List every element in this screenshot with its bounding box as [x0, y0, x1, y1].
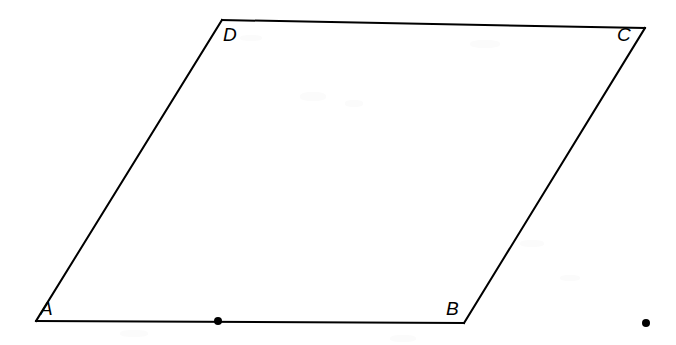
- edge-AB: [36, 321, 464, 323]
- edge-BC: [464, 28, 645, 323]
- vertex-label-A: A: [40, 299, 53, 318]
- parallelogram-canvas: [0, 0, 676, 345]
- vertex-label-B: B: [446, 299, 459, 318]
- edge-DA: [36, 20, 222, 321]
- vertex-label-C: C: [617, 25, 631, 44]
- point-isolated-point-right: [642, 319, 650, 327]
- edge-CD: [222, 20, 645, 28]
- vertex-label-D: D: [223, 25, 237, 44]
- point-midpoint-on-AB: [214, 317, 222, 325]
- parallelogram-outline: [36, 20, 645, 323]
- geometry-figure: A B C D: [0, 0, 676, 345]
